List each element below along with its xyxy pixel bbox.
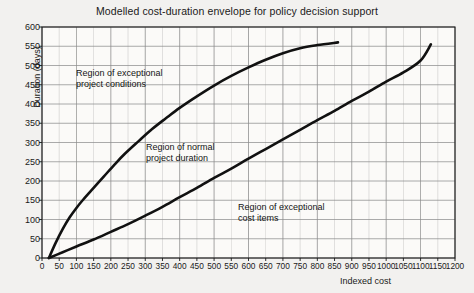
annotation-normal-project-duration: Region of normal project duration xyxy=(146,142,215,164)
annotation-line-2: project duration xyxy=(146,153,215,164)
annotation-exceptional-cost-items: Region of exceptional cost items xyxy=(238,202,325,224)
annotation-line-2: project conditions xyxy=(76,79,163,90)
annotation-line-1: Region of normal xyxy=(146,142,215,153)
annotation-line-2: cost items xyxy=(238,213,325,224)
chart-figure: Modelled cost-duration envelope for poli… xyxy=(0,0,474,293)
annotation-line-1: Region of exceptional xyxy=(76,68,163,79)
annotation-exceptional-project-conditions: Region of exceptional project conditions xyxy=(76,68,163,90)
annotation-line-1: Region of exceptional xyxy=(238,202,325,213)
plot-area xyxy=(0,0,474,293)
